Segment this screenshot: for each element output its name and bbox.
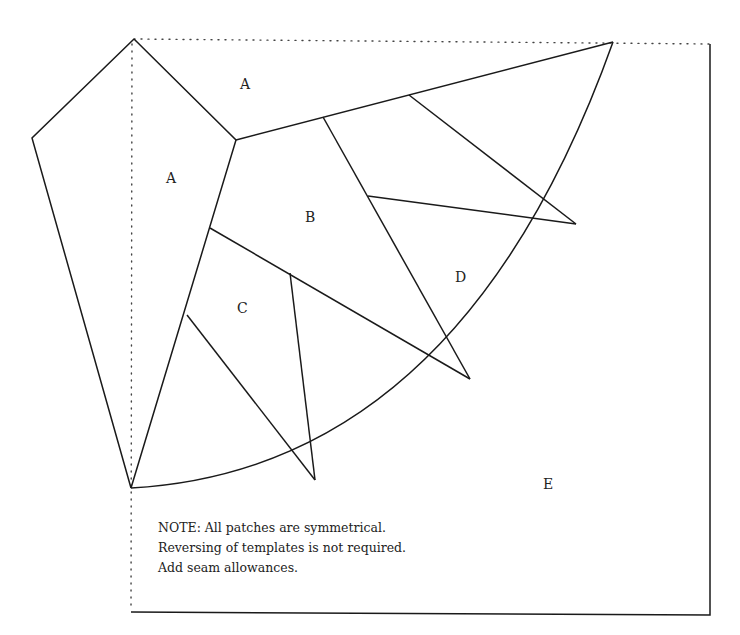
- label-b: B: [305, 209, 315, 225]
- template-note: NOTE: All patches are symmetrical. Rever…: [158, 518, 406, 578]
- label-c: C: [237, 300, 248, 316]
- patch-a-seam: [131, 39, 236, 488]
- label-a-outer: A: [239, 76, 251, 92]
- note-line: NOTE: All patches are symmetrical.: [158, 518, 406, 538]
- note-line: Reversing of templates is not required.: [158, 538, 406, 558]
- patch-a-outer-kite: [32, 39, 134, 488]
- label-d: D: [455, 269, 466, 285]
- label-e: E: [543, 476, 553, 492]
- note-line: Add seam allowances.: [158, 558, 406, 578]
- seam-c-bottom: [187, 315, 315, 480]
- left-fold-line: [131, 44, 132, 610]
- patch-b-top-edge: [236, 42, 613, 140]
- seam-b-c: [210, 228, 470, 379]
- outer-arc: [131, 42, 613, 488]
- label-a-inner: A: [165, 170, 177, 186]
- seam-b-d: [323, 117, 470, 379]
- top-fold-line: [134, 39, 710, 44]
